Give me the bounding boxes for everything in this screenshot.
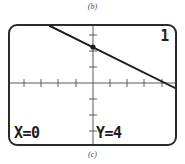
figure-caption-top: (b) [0,2,185,12]
trace-readout: X=0 Y=4 [10,120,175,142]
calculator-screen: 1 X=0 Y=4 [8,24,177,146]
function-number-indicator: 1 [161,27,169,44]
trace-cursor-dot[interactable] [90,44,95,49]
trace-x-value: X=0 [14,124,40,142]
figure-caption-bottom: (c) [0,150,185,160]
function-curve [50,26,175,88]
trace-y-value: Y=4 [96,124,122,142]
